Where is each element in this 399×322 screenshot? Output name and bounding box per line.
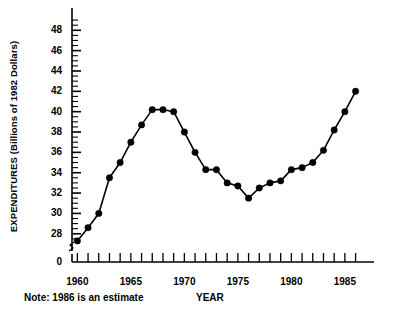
y-tick-label: 32 [38,188,62,198]
plot-svg [62,0,399,290]
data-series-line [77,91,355,241]
x-axis-title: YEAR [196,292,224,303]
x-tick-label: 1965 [120,276,142,287]
chart-footer: Note: 1986 is an estimate YEAR [0,292,399,314]
y-tick-label: 28 [38,229,62,239]
axes [69,8,374,262]
y-tick-label: 42 [38,86,62,96]
x-tick-label: 1980 [280,276,302,287]
y-axis-title: EXPENDITURES (Billions of 1982 Dollars) [9,40,20,231]
y-tick-label: 34 [38,168,62,178]
y-tick-label: 40 [38,107,62,117]
x-tick-label: 1975 [227,276,249,287]
x-tick-label: 1985 [334,276,356,287]
chart-note: Note: 1986 is an estimate [24,292,144,303]
y-tick-label: 44 [38,66,62,76]
x-tick-label: 1970 [173,276,195,287]
chart-figure: EXPENDITURES (Billions of 1982 Dollars) … [0,0,399,322]
y-tick-label: 38 [38,127,62,137]
y-tick-label: 48 [38,25,62,35]
x-tick-label: 1960 [66,276,88,287]
y-tick-label: 36 [38,147,62,157]
y-tick-label: 30 [38,208,62,218]
y-tick-label-zero: 0 [38,257,62,267]
y-axis-title-container: EXPENDITURES (Billions of 1982 Dollars) [0,0,28,272]
plot-area: 196019651970197519801985 [62,0,399,290]
y-tick-label: 46 [38,46,62,56]
y-axis-tick-labels: 28303234363840424446480 [28,0,62,285]
